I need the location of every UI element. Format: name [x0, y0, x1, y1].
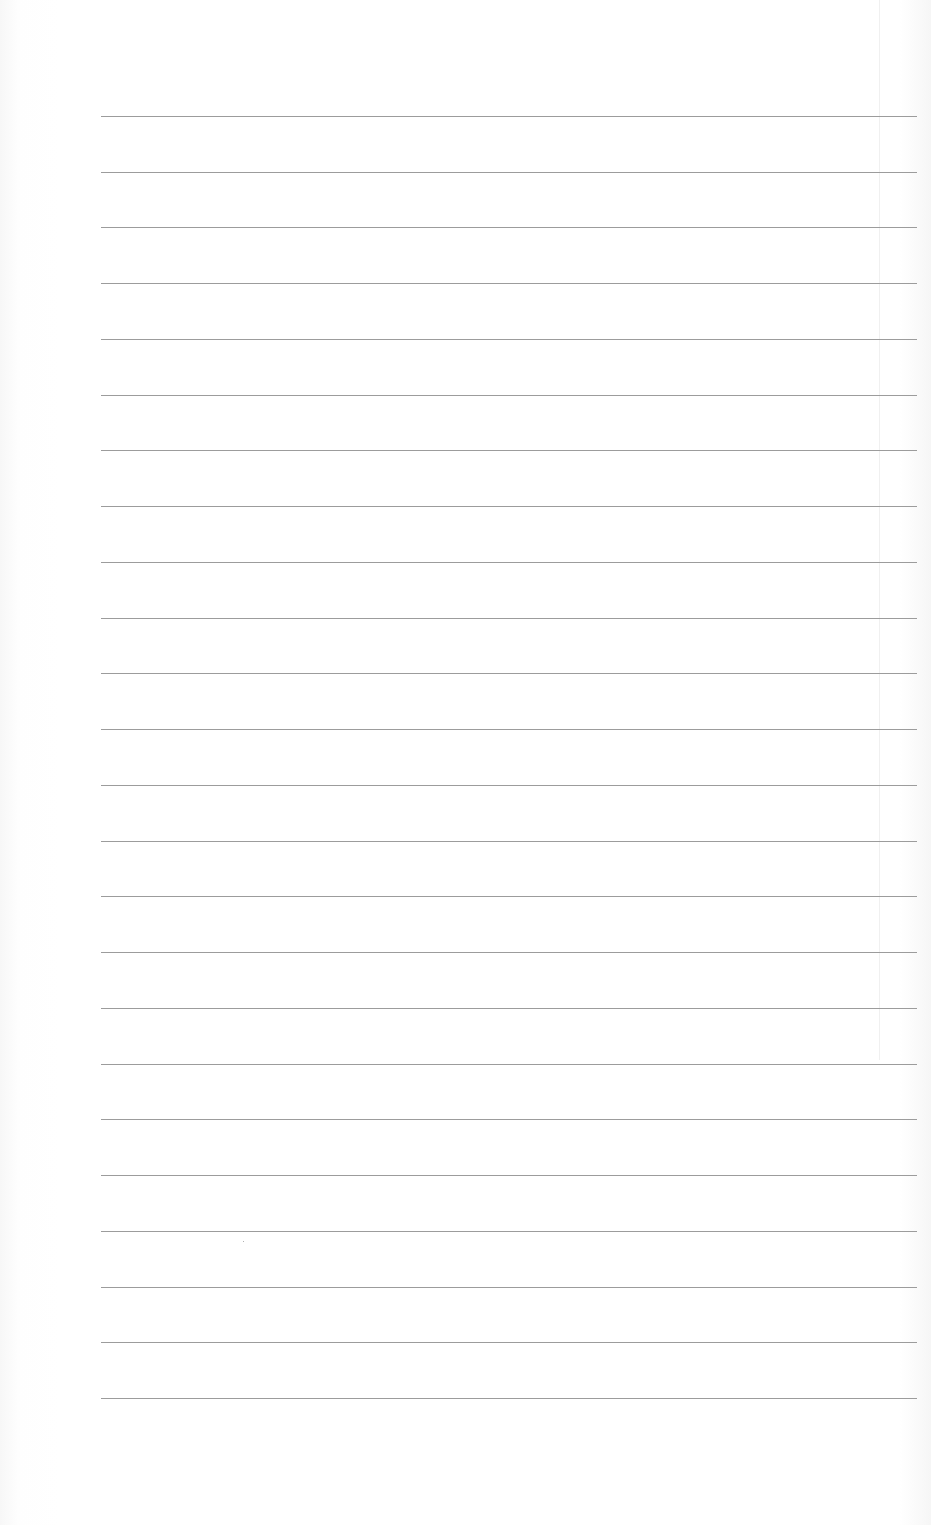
- speck-mark: [243, 1241, 244, 1242]
- ruled-line: [101, 283, 917, 284]
- ruled-line: [101, 1119, 917, 1120]
- ruled-line: [101, 227, 917, 228]
- ruled-line: [101, 1342, 917, 1343]
- ruled-line: [101, 1008, 917, 1009]
- ruled-line: [101, 1064, 917, 1065]
- lined-paper-page: [0, 0, 931, 1525]
- ruled-line: [101, 450, 917, 451]
- ruled-line: [101, 1287, 917, 1288]
- ruled-line: [101, 896, 917, 897]
- ruled-line: [101, 116, 917, 117]
- ruled-line: [101, 841, 917, 842]
- ruled-line: [101, 506, 917, 507]
- ruled-line: [101, 395, 917, 396]
- ruled-line: [101, 1398, 917, 1399]
- ruled-line: [101, 785, 917, 786]
- ruled-line: [101, 1231, 917, 1232]
- ruled-line: [101, 339, 917, 340]
- ruled-line: [101, 562, 917, 563]
- ruled-line: [101, 673, 917, 674]
- ruled-line: [101, 729, 917, 730]
- ruled-line: [101, 952, 917, 953]
- ruled-line: [101, 172, 917, 173]
- ruled-line: [101, 618, 917, 619]
- faint-margin-line: [879, 0, 880, 1060]
- ruled-line: [101, 1175, 917, 1176]
